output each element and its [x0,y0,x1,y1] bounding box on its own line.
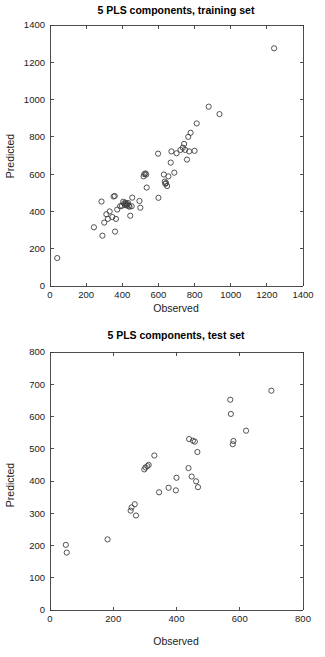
y-tick-label: 100 [29,572,45,583]
y-tick-label: 0 [40,604,45,615]
data-point [137,198,142,203]
x-tick-label: 200 [78,289,94,300]
y-tick-label: 400 [29,475,45,486]
data-point [192,148,197,153]
x-tick-label: 400 [114,289,130,300]
x-tick-label: 800 [187,289,203,300]
x-tick-label: 0 [47,289,52,300]
data-point [228,411,233,416]
data-point [99,199,104,204]
data-point [132,502,137,507]
x-tick-label: 200 [105,613,121,624]
data-point [100,233,105,238]
x-tick-label: 800 [295,613,311,624]
data-point [168,160,173,165]
y-axis-label-test: Predicted [4,463,16,508]
data-point [157,490,162,495]
axes-training: 0200400600800100012001400020040060080010… [24,19,314,300]
data-point [173,488,178,493]
data-point [217,112,222,117]
data-point [195,485,200,490]
scatter-plot-test: 5 PLS components, test set 0200400600800… [0,325,325,657]
data-point [184,157,189,162]
data-point [271,46,276,51]
x-axis-label-training: Observed [153,302,199,314]
data-point [55,255,60,260]
plot-title-training: 5 PLS components, training set [98,4,255,16]
data-markers-test [63,388,274,555]
data-point [195,449,200,454]
y-tick-label: 800 [29,131,45,142]
data-point [206,104,211,109]
x-axis-label-test: Observed [153,635,199,647]
data-point [129,505,134,510]
data-point [130,195,135,200]
y-tick-label: 1000 [24,94,45,105]
y-tick-label: 1200 [24,57,45,68]
y-tick-label: 300 [29,508,45,519]
x-tick-label: 1000 [220,289,241,300]
data-point [166,174,171,179]
data-markers-training [55,46,277,261]
y-tick-label: 500 [29,443,45,454]
data-point [194,121,199,126]
x-tick-label: 1200 [256,289,277,300]
data-point [166,485,171,490]
data-point [186,466,191,471]
plot-frame [50,352,303,610]
data-point [189,474,194,479]
data-point [115,207,120,212]
data-point [144,185,149,190]
data-point [63,542,68,547]
figure-page: 5 PLS components, training set 020040060… [0,0,325,657]
data-point [172,170,177,175]
data-point [192,439,197,444]
data-point [156,195,161,200]
data-point [105,537,110,542]
data-point [128,213,133,218]
data-point [231,438,236,443]
data-point [174,475,179,480]
x-tick-label: 600 [232,613,248,624]
data-point [64,550,69,555]
x-tick-label: 0 [47,613,52,624]
data-point [228,397,233,402]
y-tick-label: 700 [29,379,45,390]
data-point [128,508,133,513]
data-point [112,229,117,234]
data-point [133,513,138,518]
y-axis-label-training: Predicted [4,134,16,179]
y-tick-label: 600 [29,169,45,180]
plot-title-test: 5 PLS components, test set [107,329,245,341]
data-point [155,151,160,156]
y-tick-label: 400 [29,206,45,217]
data-point [91,225,96,230]
y-tick-label: 1400 [24,19,45,30]
y-tick-label: 200 [29,243,45,254]
data-point [194,479,199,484]
data-point [107,209,112,214]
scatter-plot-training: 5 PLS components, training set 020040060… [0,0,325,325]
x-tick-label: 1400 [292,289,313,300]
data-point [269,388,274,393]
data-point [169,149,174,154]
figure-training-set: 5 PLS components, training set 020040060… [0,0,325,325]
figure-test-set: 5 PLS components, test set 0200400600800… [0,325,325,657]
data-point [188,130,193,135]
y-tick-label: 200 [29,540,45,551]
y-tick-label: 600 [29,411,45,422]
data-point [152,453,157,458]
x-tick-label: 400 [169,613,185,624]
x-tick-label: 600 [150,289,166,300]
y-tick-label: 800 [29,346,45,357]
data-point [243,428,248,433]
y-tick-label: 0 [40,280,45,291]
data-point [138,205,143,210]
